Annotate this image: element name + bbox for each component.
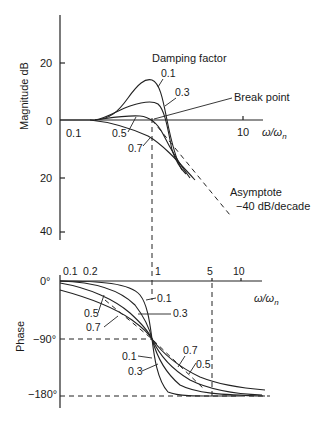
- bode-plot-diagram: 20 0 20 40 Magnitude dB 0.1 10 ω/ωn Damp…: [0, 0, 322, 433]
- mag-label-0.1: 0.1: [161, 67, 176, 79]
- mag-label-0.3: 0.3: [175, 86, 190, 98]
- phase-y-tick-neg90: −90°: [33, 333, 56, 345]
- magnitude-plot: 20 0 20 40 Magnitude dB 0.1 10 ω/ωn Damp…: [18, 15, 310, 300]
- phase-label-0.5-right: 0.5: [196, 358, 211, 370]
- phase-label-0.3-lower: 0.3: [128, 365, 143, 377]
- mag-y-tick-20: 20: [40, 57, 52, 69]
- phase-label-0.7-right: 0.7: [183, 344, 198, 356]
- asymptote-label: Asymptote: [230, 186, 282, 198]
- mag-y-tick-neg20: 20: [40, 172, 52, 184]
- phase-y-label: Phase: [14, 321, 26, 352]
- break-point-label: Break point: [234, 91, 290, 103]
- phase-label-0.7-left: 0.7: [86, 321, 101, 333]
- magnitude-curve-0.3: [95, 102, 186, 174]
- phase-x-tick-1: 1: [155, 265, 161, 277]
- phase-label-0.5-left: 0.5: [84, 307, 99, 319]
- phase-label-0.1-mid: 0.1: [157, 292, 172, 304]
- asymptote-line: [152, 120, 230, 215]
- phase-label-0.1-lower: 0.1: [122, 350, 137, 362]
- mag-y-tick-neg40: 40: [40, 225, 52, 237]
- magnitude-curve-0.1: [60, 80, 182, 170]
- mag-label-0.7: 0.7: [128, 142, 143, 154]
- phase-x-label: ω/ωn: [254, 292, 279, 307]
- phase-plot: 0.1 0.2 1 5 10 ω/ωn 0° −90° −180° Phase …: [14, 265, 279, 408]
- phase-label-0.3-mid: 0.3: [173, 307, 188, 319]
- asymptote-slope-label: −40 dB/decade: [236, 200, 310, 212]
- mag-x-label: ω/ωn: [262, 126, 287, 141]
- phase-y-tick-0: 0°: [40, 275, 51, 287]
- phase-x-tick-5: 5: [207, 265, 213, 277]
- damping-factor-title: Damping factor: [152, 52, 227, 64]
- mag-x-tick-0.1: 0.1: [66, 127, 81, 139]
- magnitude-y-label: Magnitude dB: [18, 62, 30, 130]
- phase-x-tick-10: 10: [233, 265, 245, 277]
- phase-x-tick-0.1: 0.1: [63, 265, 78, 277]
- mag-y-tick-0: 0: [46, 115, 52, 127]
- phase-x-tick-0.2: 0.2: [83, 265, 98, 277]
- phase-y-tick-neg180: −180°: [28, 388, 57, 400]
- phase-curve-0.7: [60, 290, 265, 390]
- mag-label-0.5: 0.5: [112, 127, 127, 139]
- mag-x-tick-10: 10: [237, 126, 249, 138]
